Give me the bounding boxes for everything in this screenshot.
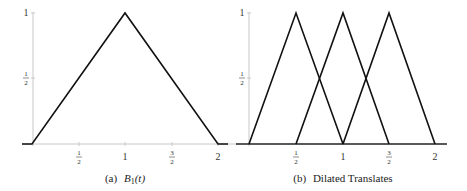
svg-text:2: 2 [24, 79, 28, 87]
svg-text:1: 1 [240, 70, 244, 78]
svg-text:1: 1 [24, 70, 28, 78]
panel-b: 1 1 2 1 2 1 3 2 2 (b) Dilated Translates [236, 7, 447, 185]
panel-a-b1-curve [22, 13, 228, 144]
panel-b-xtick-three-half: 3 2 [386, 149, 392, 166]
panel-b-ytick-1: 1 [240, 7, 245, 18]
panel-a-ytick-1: 1 [24, 7, 29, 18]
panel-a-xtick-half: 1 2 [76, 149, 82, 166]
svg-text:1: 1 [77, 149, 81, 157]
svg-text:1: 1 [294, 149, 298, 157]
panel-b-ytick-half: 1 2 [239, 70, 245, 87]
panel-b-xtick-half: 1 2 [293, 149, 299, 166]
figure: 1 1 2 1 2 1 3 2 2 (a) B1(t) [0, 0, 467, 191]
panel-b-hat-3 [343, 13, 435, 144]
panel-b-caption: (b) Dilated Translates [293, 172, 392, 185]
panel-a-xtick-three-half: 3 2 [169, 149, 175, 166]
panel-a: 1 1 2 1 2 1 3 2 2 (a) B1(t) [22, 7, 238, 186]
panel-b-hat-1 [249, 13, 343, 144]
svg-text:2: 2 [294, 158, 298, 166]
svg-text:3: 3 [387, 149, 391, 157]
panel-a-ytick-half: 1 2 [23, 70, 29, 87]
svg-text:2: 2 [240, 79, 244, 87]
svg-text:3: 3 [170, 149, 174, 157]
panel-b-xtick-1: 1 [341, 151, 346, 162]
svg-text:2: 2 [387, 158, 391, 166]
panel-a-caption: (a) B1(t) [105, 172, 145, 186]
svg-text:2: 2 [170, 158, 174, 166]
panel-b-hat-2 [296, 13, 389, 144]
panel-a-xtick-1: 1 [123, 151, 128, 162]
panel-b-xtick-2: 2 [433, 151, 438, 162]
panel-a-xtick-2: 2 [216, 151, 221, 162]
svg-text:2: 2 [77, 158, 81, 166]
